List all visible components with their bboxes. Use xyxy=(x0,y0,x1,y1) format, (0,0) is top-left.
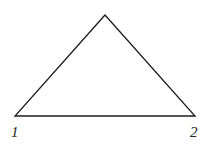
triangle-diagram xyxy=(0,0,205,150)
vertex-label-1: 1 xyxy=(11,125,19,140)
vertex-label-2: 2 xyxy=(190,125,198,140)
triangle-shape xyxy=(15,15,195,116)
